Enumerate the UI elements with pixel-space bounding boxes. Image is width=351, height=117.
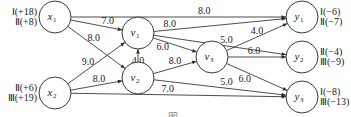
edge-weight-label: 5.0 <box>220 76 233 87</box>
supply-demand-annotation: Ⅲ(−13) <box>320 96 349 108</box>
node-v3: v3 <box>196 41 228 73</box>
edge-weight-label: 9.0 <box>82 56 95 67</box>
node-subscript: 2 <box>136 77 140 85</box>
node-y1: y1 <box>286 1 318 33</box>
figure-caption: 图 <box>168 112 178 117</box>
edge-labels-layer: 8.07.08.09.08.07.04.08.06.05.08.05.04.06… <box>82 5 264 94</box>
node-v2: v2 <box>122 62 154 94</box>
edge-weight-label: 8.0 <box>198 5 211 16</box>
edge-weight-label: 8.0 <box>169 55 182 66</box>
edge-v3-y3 <box>227 63 288 90</box>
edge-weight-label: 7.0 <box>161 83 174 94</box>
edge-x1-v1 <box>71 20 123 30</box>
node-subscript: 2 <box>300 56 304 64</box>
supply-demand-annotation: Ⅱ(−7) <box>320 16 342 28</box>
node-subscript: 1 <box>53 16 57 24</box>
node-subscript: 3 <box>210 56 214 64</box>
node-subscript: 2 <box>53 92 57 100</box>
node-y2: y2 <box>286 41 318 73</box>
edge-weight-label: 6.0 <box>248 45 261 56</box>
node-y3: y3 <box>286 81 318 113</box>
edge-weight-label: 7.0 <box>102 15 115 26</box>
node-subscript: 3 <box>300 96 304 104</box>
node-v1: v1 <box>122 17 154 49</box>
node-subscript: 1 <box>136 32 140 40</box>
node-x1: x1 <box>39 1 71 33</box>
edge-weight-label: 8.0 <box>93 73 106 84</box>
node-x2: x2 <box>39 77 71 109</box>
network-diagram: 8.07.08.09.08.07.04.08.06.05.08.05.04.06… <box>0 0 351 117</box>
edge-weight-label: 4.0 <box>251 25 264 36</box>
edge-weight-label: 8.0 <box>87 32 100 43</box>
supply-demand-annotation: Ⅲ(−9) <box>320 56 344 68</box>
node-subscript: 1 <box>300 16 304 24</box>
edge-weight-label: 6.0 <box>157 41 170 52</box>
edge-weight-label: 6.0 <box>239 73 252 84</box>
edge-x2-y3 <box>71 93 286 96</box>
edge-weight-label: 8.0 <box>164 18 177 29</box>
edge-weight-label: 5.0 <box>220 34 233 45</box>
supply-demand-annotation: Ⅲ(+19) <box>8 92 37 104</box>
supply-demand-annotation: Ⅱ(+8) <box>15 16 37 28</box>
